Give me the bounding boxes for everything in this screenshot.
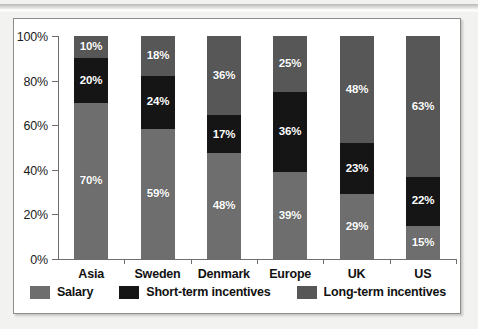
bar-segment-value-label: 22% (412, 195, 434, 207)
y-axis-tick-label: 40% (24, 164, 48, 178)
bar-segment-value-label: 10% (80, 41, 102, 53)
bar-segment-value-label: 18% (147, 50, 169, 62)
chart-plot-area: 0%20%40%60%80%100% 70%20%10%59%24%18%48%… (14, 19, 460, 313)
legend-swatch-salary (30, 286, 50, 299)
bar-stack-denmark[interactable]: 48%17%36% (207, 36, 241, 259)
bar-segment-denmark-long-term-incentives[interactable]: 36% (207, 36, 241, 115)
legend-label-long-term-incentives: Long-term incentives (324, 285, 446, 299)
y-axis-tick-label: 100% (17, 30, 48, 44)
bar-segment-value-label: 36% (213, 70, 235, 82)
bar-segment-europe-salary[interactable]: 39% (273, 172, 307, 259)
bar-segment-value-label: 17% (213, 129, 235, 141)
bar-stack-uk[interactable]: 29%23%48% (340, 36, 374, 259)
legend-item-salary[interactable]: Salary (30, 285, 93, 299)
y-axis-tick-mark (52, 214, 58, 215)
y-axis-tick-label: 20% (24, 208, 48, 222)
bar-segment-value-label: 24% (147, 96, 169, 108)
y-axis-tick-mark (52, 36, 58, 37)
bar-segment-us-short-term-incentives[interactable]: 22% (406, 177, 440, 226)
x-axis-tick-mark (323, 259, 324, 264)
top-band-highlight (0, 9, 478, 12)
legend-label-salary: Salary (57, 285, 93, 299)
legend-swatch-long-term-incentives (297, 286, 317, 299)
x-axis-tick-mark (191, 259, 192, 264)
bar-segment-europe-short-term-incentives[interactable]: 36% (273, 92, 307, 172)
y-axis-line (58, 36, 59, 259)
bar-segment-value-label: 29% (346, 221, 368, 233)
bar-segment-denmark-salary[interactable]: 48% (207, 153, 241, 259)
bar-segment-value-label: 15% (412, 237, 434, 249)
x-axis-tick-mark (390, 259, 391, 264)
x-axis-tick-mark (257, 259, 258, 264)
bar-segment-value-label: 48% (346, 84, 368, 96)
bar-segment-value-label: 25% (279, 58, 301, 70)
bar-stack-asia[interactable]: 70%20%10% (74, 36, 108, 259)
x-axis-tick-mark (456, 259, 457, 264)
bar-segment-value-label: 20% (80, 75, 102, 87)
bar-segment-value-label: 48% (213, 200, 235, 212)
x-axis-tick-mark (124, 259, 125, 264)
bar-stack-europe[interactable]: 39%36%25% (273, 36, 307, 259)
bar-stack-sweden[interactable]: 59%24%18% (141, 36, 175, 259)
y-axis-tick-mark (52, 170, 58, 171)
bar-segment-uk-salary[interactable]: 29% (340, 194, 374, 259)
bar-stack-us[interactable]: 15%22%63% (406, 36, 440, 259)
page-root: 0%20%40%60%80%100% 70%20%10%59%24%18%48%… (0, 0, 478, 329)
chart-figure-panel: 0%20%40%60%80%100% 70%20%10%59%24%18%48%… (13, 18, 461, 314)
x-axis-label-us: US (383, 267, 463, 281)
y-axis-tick-mark (52, 259, 58, 260)
y-axis-tick-mark (52, 81, 58, 82)
bar-segment-uk-short-term-incentives[interactable]: 23% (340, 143, 374, 194)
legend-item-long-term-incentives[interactable]: Long-term incentives (297, 285, 446, 299)
bar-segment-asia-short-term-incentives[interactable]: 20% (74, 58, 108, 103)
bar-segment-value-label: 63% (412, 101, 434, 113)
bar-segment-asia-long-term-incentives[interactable]: 10% (74, 36, 108, 58)
bar-segment-europe-long-term-incentives[interactable]: 25% (273, 36, 307, 92)
y-axis-tick-label: 80% (24, 75, 48, 89)
bar-segment-value-label: 59% (147, 188, 169, 200)
bar-segment-sweden-long-term-incentives[interactable]: 18% (141, 36, 175, 76)
legend-item-short-term-incentives[interactable]: Short-term incentives (119, 285, 270, 299)
bar-segment-value-label: 70% (80, 175, 102, 187)
bar-segment-uk-long-term-incentives[interactable]: 48% (340, 36, 374, 143)
bar-segment-asia-salary[interactable]: 70% (74, 103, 108, 259)
y-axis-tick-label: 60% (24, 119, 48, 133)
bar-segment-denmark-short-term-incentives[interactable]: 17% (207, 115, 241, 153)
bar-segment-value-label: 39% (279, 210, 301, 222)
bar-segment-value-label: 36% (279, 126, 301, 138)
bar-segment-sweden-short-term-incentives[interactable]: 24% (141, 76, 175, 129)
bar-segment-us-salary[interactable]: 15% (406, 226, 440, 259)
bar-segment-us-long-term-incentives[interactable]: 63% (406, 36, 440, 176)
bar-segment-sweden-salary[interactable]: 59% (141, 129, 175, 259)
bar-segment-value-label: 23% (346, 163, 368, 175)
chart-legend: SalaryShort-term incentivesLong-term inc… (14, 285, 462, 299)
legend-swatch-short-term-incentives (119, 286, 139, 299)
legend-label-short-term-incentives: Short-term incentives (146, 285, 270, 299)
y-axis-tick-label: 0% (30, 253, 48, 267)
y-axis-tick-mark (52, 125, 58, 126)
